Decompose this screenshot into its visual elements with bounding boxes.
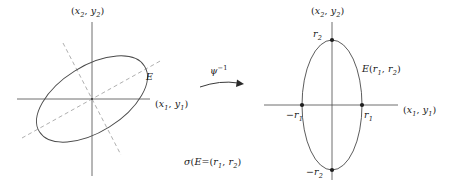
right-top-vertex-dot xyxy=(330,38,334,42)
left-panel-group xyxy=(17,22,162,176)
figure-container: (x2, y2) (x1, y1) E ψ−1 σ(E=(r1, r2) (x2… xyxy=(0,0,457,185)
right-ellipse-label: E(r1, r2) xyxy=(362,64,401,76)
sigma-caption: σ(E=(r1, r2) xyxy=(184,157,241,169)
left-origin-point xyxy=(91,98,93,100)
right-right-vertex-dot xyxy=(360,103,364,107)
right-vertical-axis-label: (x2, y2) xyxy=(311,6,344,18)
right-bottom-vertex-dot xyxy=(330,168,334,172)
right-bottom-vertex-label: −r2 xyxy=(306,167,323,179)
right-panel-group xyxy=(264,22,398,180)
left-vertical-axis-label: (x2, y2) xyxy=(71,6,104,18)
transform-arrow-label: ψ−1 xyxy=(210,65,227,76)
right-horizontal-axis-label: (x1, y1) xyxy=(403,105,436,117)
right-left-vertex-label: −r1 xyxy=(286,110,303,122)
left-ellipse-label: E xyxy=(146,72,153,82)
right-left-vertex-dot xyxy=(300,103,304,107)
right-right-vertex-label: r1 xyxy=(364,110,373,122)
transform-arrow-line xyxy=(200,82,238,87)
transform-arrow-group xyxy=(200,80,244,88)
transform-arrow-head xyxy=(236,80,244,88)
left-horizontal-axis-label: (x1, y1) xyxy=(155,99,188,111)
right-top-vertex-label: r2 xyxy=(313,29,322,41)
